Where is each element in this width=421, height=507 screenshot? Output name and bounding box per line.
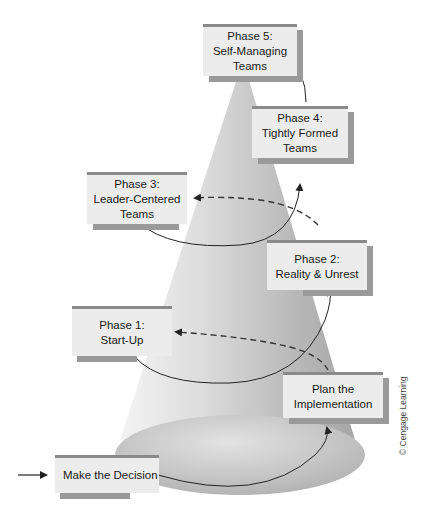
team-development-diagram: Phase 5: Self-Managing Teams Phase 4: Ti… <box>0 0 421 507</box>
node-phase2: Phase 2: Reality & Unrest <box>267 240 367 290</box>
node-label: Phase 2: Reality & Unrest <box>275 252 358 282</box>
node-label: Phase 3: Leader-Centered Teams <box>94 177 181 222</box>
node-make-decision: Make the Decision <box>55 455 159 493</box>
copyright-credit: © Cengage Learning <box>398 376 408 455</box>
node-label: Phase 1: Start-Up <box>99 318 144 348</box>
node-phase1: Phase 1: Start-Up <box>72 306 172 356</box>
node-label: Phase 4: Tightly Formed Teams <box>262 111 338 156</box>
node-label: Plan the Implementation <box>294 382 373 412</box>
node-phase5: Phase 5: Self-Managing Teams <box>203 24 297 76</box>
node-phase4: Phase 4: Tightly Formed Teams <box>252 106 348 158</box>
node-label: Phase 5: Self-Managing Teams <box>213 29 287 74</box>
node-phase3: Phase 3: Leader-Centered Teams <box>87 172 187 224</box>
node-label: Make the Decision <box>63 468 158 483</box>
node-plan-implementation: Plan the Implementation <box>283 372 383 418</box>
